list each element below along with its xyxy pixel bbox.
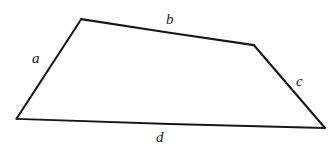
edge-c-line (254, 45, 325, 128)
edge-label-a: a (32, 51, 40, 66)
edge-d-line (17, 119, 326, 128)
edge-label-d: d (156, 130, 164, 145)
edge-label-b: b (166, 12, 174, 27)
edge-a-line (17, 19, 82, 119)
edge-label-c: c (296, 74, 303, 89)
figure-canvas: a b c d (0, 0, 336, 149)
